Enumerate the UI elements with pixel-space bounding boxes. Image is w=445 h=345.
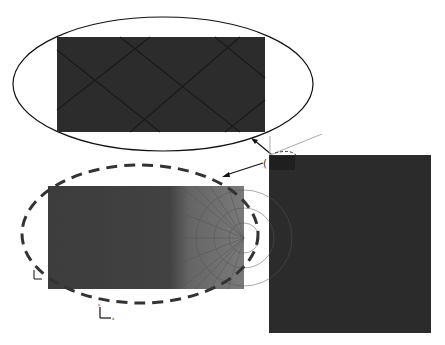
top-detail-mesh [57,37,265,132]
arrow-to-top-view [251,138,272,155]
axis-label-y: y [98,302,101,307]
axis-label-x: x [112,316,115,321]
zoom-region-bracket: ( [263,158,267,169]
left-detail-view [22,165,292,303]
arrow-to-left-view [222,163,263,177]
axis-triad-bottom [100,307,111,318]
top-detail-view [13,17,313,151]
full-model-mesh [269,155,431,333]
full-model-view: ( [263,151,431,333]
zoom-region-box [270,156,295,170]
fe-mesh-figure: ( y x [0,0,445,345]
